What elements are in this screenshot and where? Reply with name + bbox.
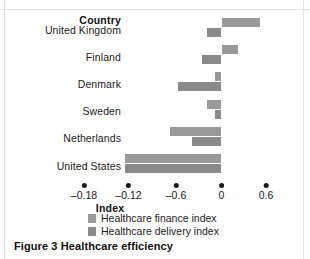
x-axis-tick: –0.18 — [71, 183, 97, 201]
page-edge-top — [0, 9, 310, 10]
tick-dot-icon — [219, 183, 224, 188]
chart-row: Sweden — [0, 98, 310, 125]
x-axis-tick-label: –0.18 — [71, 189, 97, 201]
bar-finance — [215, 72, 222, 81]
chart-row: Netherlands — [0, 125, 310, 152]
chart-row: Finland — [0, 43, 310, 70]
legend-label: Healthcare finance index — [101, 212, 217, 224]
tick-dot-icon — [263, 183, 268, 188]
bar-delivery — [178, 82, 222, 91]
bar-finance — [170, 127, 222, 136]
bar-group — [0, 16, 310, 43]
bar-finance — [125, 154, 221, 163]
bar-group — [0, 152, 310, 179]
x-axis-tick-label: 0 — [219, 189, 225, 201]
bar-finance — [207, 100, 221, 109]
chart-x-axis: –0.18–0.12–0.600.6Index — [0, 183, 310, 213]
x-axis-tick: –0.6 — [166, 183, 186, 201]
x-axis-tick-label: –0.12 — [115, 189, 141, 201]
bar-group — [0, 70, 310, 97]
legend-item: Healthcare finance index — [88, 212, 288, 224]
chart-row: United Kingdom — [0, 16, 310, 43]
tick-dot-icon — [174, 183, 179, 188]
chart-row: Denmark — [0, 70, 310, 97]
bar-delivery — [192, 137, 222, 146]
figure-healthcare-efficiency: Country United KingdomFinlandDenmarkSwed… — [0, 0, 310, 259]
x-axis-tick: 0 — [219, 183, 225, 201]
figure-caption: Figure 3 Healthcare efficiency — [14, 240, 173, 252]
x-axis-tick: –0.12 — [115, 183, 141, 201]
legend-swatch-icon — [88, 214, 96, 223]
tick-dot-icon — [82, 183, 87, 188]
bar-delivery — [125, 164, 221, 173]
chart-row: United States — [0, 152, 310, 179]
legend-swatch-icon — [88, 227, 96, 236]
bar-finance — [222, 45, 238, 54]
bar-group — [0, 125, 310, 152]
tick-dot-icon — [126, 183, 131, 188]
bar-finance — [222, 18, 260, 27]
bar-group — [0, 43, 310, 70]
x-axis-tick: 0.6 — [259, 183, 274, 201]
bar-group — [0, 98, 310, 125]
chart-plot-area: United KingdomFinlandDenmarkSwedenNether… — [0, 14, 310, 184]
bar-delivery — [202, 55, 222, 64]
x-axis-tick-label: –0.6 — [166, 189, 186, 201]
bar-delivery — [215, 110, 222, 119]
bar-delivery — [207, 28, 221, 37]
legend-item: Healthcare delivery index — [88, 225, 288, 237]
legend-label: Healthcare delivery index — [101, 225, 219, 237]
chart-legend: Healthcare finance indexHealthcare deliv… — [88, 212, 288, 238]
x-axis-tick-label: 0.6 — [259, 189, 274, 201]
